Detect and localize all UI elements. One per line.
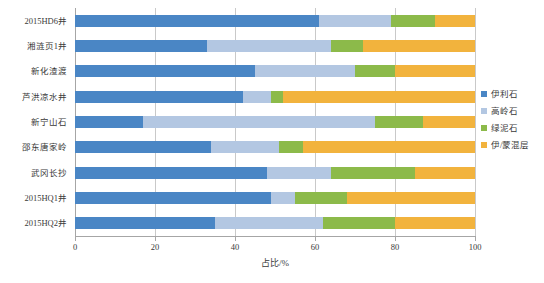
legend-swatch-icon	[481, 91, 487, 97]
legend-item[interactable]: 高岭石	[481, 102, 543, 119]
bar-segment[interactable]	[435, 15, 475, 27]
category-label: 邵东唐家岭	[0, 142, 67, 152]
bar-row[interactable]	[75, 40, 475, 52]
bar-segment[interactable]	[271, 192, 295, 204]
x-tick-label: 60	[295, 242, 335, 253]
bar-segment[interactable]	[75, 141, 211, 153]
bar-segment[interactable]	[303, 141, 475, 153]
x-tick-label: 20	[135, 242, 175, 253]
legend: 伊利石高岭石绿泥石伊/蒙混层	[481, 85, 543, 153]
legend-label: 伊利石	[491, 89, 518, 99]
x-axis-line	[75, 236, 476, 237]
bar-segment[interactable]	[75, 167, 267, 179]
bar-segment[interactable]	[207, 40, 331, 52]
bar-row[interactable]	[75, 65, 475, 77]
category-label: 新化渣渡	[0, 66, 67, 76]
x-tick-label: 40	[215, 242, 255, 253]
bar-segment[interactable]	[215, 217, 323, 229]
category-label: 芦洪凉水井	[0, 92, 67, 102]
x-tick-mark	[315, 237, 316, 241]
bar-segment[interactable]	[267, 167, 331, 179]
legend-item[interactable]: 绿泥石	[481, 119, 543, 136]
x-axis-title: 占比/%	[75, 256, 475, 269]
category-axis: 2015HD6井湘涟页1井新化渣渡芦洪凉水井新宁山石邵东唐家岭武冈长抄2015H…	[0, 8, 72, 236]
bar-row[interactable]	[75, 167, 475, 179]
bar-rows	[75, 8, 475, 236]
bar-segment[interactable]	[395, 217, 475, 229]
legend-label: 高岭石	[491, 106, 518, 116]
legend-swatch-icon	[481, 108, 487, 114]
legend-label: 伊/蒙混层	[491, 140, 529, 150]
bar-segment[interactable]	[75, 217, 215, 229]
bar-segment[interactable]	[423, 116, 475, 128]
bar-segment[interactable]	[271, 91, 283, 103]
bar-segment[interactable]	[75, 65, 255, 77]
bar-segment[interactable]	[75, 91, 243, 103]
legend-swatch-icon	[481, 125, 487, 131]
bar-segment[interactable]	[355, 65, 395, 77]
x-tick-mark	[395, 237, 396, 241]
category-label: 2015HD6井	[0, 16, 67, 26]
category-label: 武冈长抄	[0, 168, 67, 178]
category-label: 2015HQ1井	[0, 193, 67, 203]
bar-segment[interactable]	[331, 40, 363, 52]
bar-segment[interactable]	[415, 167, 475, 179]
bar-segment[interactable]	[279, 141, 303, 153]
bar-segment[interactable]	[75, 40, 207, 52]
legend-swatch-icon	[481, 142, 487, 148]
x-tick-label: 80	[375, 242, 415, 253]
category-label: 2015HQ2井	[0, 218, 67, 228]
bar-segment[interactable]	[143, 116, 375, 128]
category-label: 新宁山石	[0, 117, 67, 127]
bar-segment[interactable]	[391, 15, 435, 27]
bar-row[interactable]	[75, 116, 475, 128]
x-tick-mark	[155, 237, 156, 241]
bar-segment[interactable]	[331, 167, 415, 179]
bar-segment[interactable]	[323, 217, 395, 229]
bar-segment[interactable]	[295, 192, 347, 204]
x-tick-mark	[235, 237, 236, 241]
legend-label: 绿泥石	[491, 123, 518, 133]
gridline	[475, 8, 476, 236]
bar-segment[interactable]	[375, 116, 423, 128]
bar-segment[interactable]	[363, 40, 475, 52]
bar-row[interactable]	[75, 217, 475, 229]
stacked-bar-chart: 2015HD6井湘涟页1井新化渣渡芦洪凉水井新宁山石邵东唐家岭武冈长抄2015H…	[0, 0, 544, 283]
x-tick-label: 0	[55, 242, 95, 253]
bar-segment[interactable]	[283, 91, 475, 103]
bar-segment[interactable]	[395, 65, 475, 77]
bar-segment[interactable]	[211, 141, 279, 153]
bar-row[interactable]	[75, 15, 475, 27]
x-tick-mark	[75, 237, 76, 241]
category-label: 湘涟页1井	[0, 41, 67, 51]
legend-item[interactable]: 伊/蒙混层	[481, 136, 543, 153]
bar-row[interactable]	[75, 192, 475, 204]
bar-segment[interactable]	[319, 15, 391, 27]
bar-row[interactable]	[75, 141, 475, 153]
legend-item[interactable]: 伊利石	[481, 85, 543, 102]
bar-segment[interactable]	[347, 192, 475, 204]
bar-segment[interactable]	[243, 91, 271, 103]
bar-segment[interactable]	[255, 65, 355, 77]
bar-segment[interactable]	[75, 192, 271, 204]
bar-row[interactable]	[75, 91, 475, 103]
x-tick-label: 100	[455, 242, 495, 253]
plot-area	[75, 8, 475, 236]
bar-segment[interactable]	[75, 116, 143, 128]
bar-segment[interactable]	[75, 15, 319, 27]
x-tick-mark	[475, 237, 476, 241]
